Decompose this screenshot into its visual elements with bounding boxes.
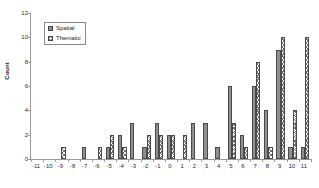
- x-axis-tick-mark: [189, 159, 190, 162]
- bar-thematic--6: [98, 147, 102, 159]
- x-axis-tick-label: -3: [131, 163, 136, 169]
- x-axis-tick-mark: [128, 159, 129, 162]
- bar-thematic--4: [122, 147, 126, 159]
- bar-thematic-6: [244, 147, 248, 159]
- x-axis-tick-mark: [68, 159, 69, 162]
- bar-spatial--7: [82, 147, 86, 159]
- x-axis-tick-label: 4: [217, 163, 220, 169]
- x-axis-tick-mark: [287, 159, 288, 162]
- x-axis-tick-label: 0: [168, 163, 171, 169]
- y-axis-tick-mark: [28, 135, 31, 136]
- legend-item-spatial: Spatial: [48, 25, 81, 32]
- bar-thematic-9: [281, 37, 285, 159]
- x-axis-tick-label: 1: [181, 163, 184, 169]
- bar-spatial--3: [130, 123, 134, 160]
- y-axis-tick-mark: [28, 62, 31, 63]
- x-axis-tick-mark: [274, 159, 275, 162]
- x-axis-tick-label: 3: [205, 163, 208, 169]
- legend-item-thematic: Thematic: [48, 35, 81, 42]
- x-axis-tick-mark: [250, 159, 251, 162]
- bar-thematic-5: [232, 123, 236, 160]
- x-axis-tick-mark: [165, 159, 166, 162]
- x-axis-tick-mark: [153, 159, 154, 162]
- x-axis-tick-label: -10: [44, 163, 53, 169]
- x-axis-tick-mark: [43, 159, 44, 162]
- bar-thematic-1: [183, 135, 187, 159]
- x-axis-tick-label: -2: [143, 163, 148, 169]
- legend-label-thematic: Thematic: [56, 35, 81, 42]
- legend-swatch-spatial-icon: [48, 26, 53, 31]
- bar-thematic-0: [171, 135, 175, 159]
- x-axis-tick-label: 10: [288, 163, 295, 169]
- x-axis-tick-label: 5: [229, 163, 232, 169]
- x-axis-tick-label: 7: [254, 163, 257, 169]
- bar-thematic-11: [305, 37, 309, 159]
- x-axis-tick-mark: [55, 159, 56, 162]
- x-axis-tick-label: 8: [266, 163, 269, 169]
- bar-thematic-10: [293, 110, 297, 159]
- x-axis-tick-mark: [226, 159, 227, 162]
- x-axis-tick-label: -5: [106, 163, 111, 169]
- x-axis-tick-mark: [201, 159, 202, 162]
- y-axis-title: Count: [4, 41, 10, 101]
- bar-thematic--9: [61, 147, 65, 159]
- x-axis-tick-mark: [177, 159, 178, 162]
- y-axis-tick-mark: [28, 13, 31, 14]
- x-axis-tick-label: -6: [94, 163, 99, 169]
- x-axis-tick-label: 11: [301, 163, 307, 169]
- legend-swatch-thematic-icon: [48, 36, 53, 41]
- x-axis-tick-mark: [31, 159, 32, 162]
- y-axis-tick-mark: [28, 86, 31, 87]
- y-axis-tick-mark: [28, 37, 31, 38]
- x-axis-tick-mark: [299, 159, 300, 162]
- x-axis-tick-label: -4: [119, 163, 124, 169]
- bar-thematic-7: [256, 62, 260, 159]
- chart-legend: Spatial Thematic: [44, 22, 86, 45]
- y-axis-tick-mark: [28, 110, 31, 111]
- bar-chart: Count 024681012 Spatial Thematic -11-10-…: [0, 0, 319, 188]
- y-axis-tick-label: 10: [21, 34, 28, 40]
- bar-thematic-8: [268, 147, 272, 159]
- x-axis-tick-label: -9: [58, 163, 63, 169]
- x-axis-tick-label: 6: [241, 163, 244, 169]
- x-axis-tick-label: -1: [155, 163, 160, 169]
- bar-thematic--2: [147, 135, 151, 159]
- x-axis-tick-mark: [92, 159, 93, 162]
- x-axis-tick-mark: [104, 159, 105, 162]
- x-axis-tick-mark: [141, 159, 142, 162]
- x-axis-tick-mark: [238, 159, 239, 162]
- x-axis-tick-label: 2: [193, 163, 196, 169]
- bar-spatial-2: [191, 123, 195, 160]
- y-axis-tick-label: 12: [21, 10, 28, 16]
- legend-label-spatial: Spatial: [56, 25, 74, 32]
- x-axis-tick-mark: [214, 159, 215, 162]
- bar-thematic--1: [159, 135, 163, 159]
- bar-spatial-3: [203, 123, 207, 160]
- bar-spatial-4: [215, 147, 219, 159]
- x-axis-tick-label: 9: [278, 163, 281, 169]
- x-axis-tick-mark: [262, 159, 263, 162]
- x-axis-tick-label: -11: [32, 163, 40, 169]
- x-axis-tick-mark: [311, 159, 312, 162]
- x-axis-tick-mark: [116, 159, 117, 162]
- bar-thematic--5: [110, 135, 114, 159]
- x-axis-tick-label: -7: [82, 163, 87, 169]
- x-axis-tick-mark: [80, 159, 81, 162]
- x-axis-tick-label: -8: [70, 163, 75, 169]
